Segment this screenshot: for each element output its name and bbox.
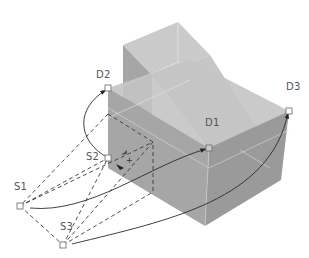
marker-d2[interactable]: [105, 85, 111, 91]
label-d1: D1: [205, 118, 219, 128]
marker-s1[interactable]: [17, 203, 23, 209]
label-s2: S2: [86, 152, 99, 162]
label-d2: D2: [96, 70, 110, 80]
label-s1: S1: [14, 182, 27, 192]
svg-text:+: +: [126, 156, 133, 165]
main-box-solid: [108, 60, 289, 226]
label-s3: S3: [60, 222, 73, 232]
marker-s2[interactable]: [105, 155, 111, 161]
assembly-diagram: +: [0, 0, 309, 258]
arrow-s2-to-d2: [84, 90, 108, 158]
marker-d3[interactable]: [286, 108, 292, 114]
label-d3: D3: [286, 82, 300, 92]
marker-s3[interactable]: [60, 242, 66, 248]
marker-d1[interactable]: [206, 145, 212, 151]
